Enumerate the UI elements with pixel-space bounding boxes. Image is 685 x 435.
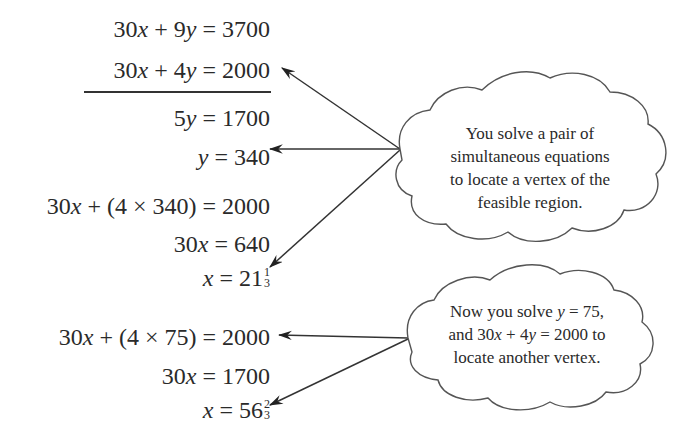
arrow-to-sub2-line1 <box>279 335 408 338</box>
arrow-to-x-56 <box>270 339 408 405</box>
callout-1-line-1: You solve a pair of <box>410 122 650 145</box>
callout-1-line-3: to locate a vertex of the <box>410 168 650 191</box>
callout-1-text: You solve a pair of simultaneous equatio… <box>410 122 650 214</box>
callout-1-line-4: feasible region. <box>410 191 650 214</box>
callout-2-line-1: Now you solve y = 75, <box>412 300 642 323</box>
arrow-to-x-21 <box>270 150 400 267</box>
callout-1-line-2: simultaneous equations <box>410 145 650 168</box>
arrow-to-equation-2 <box>282 68 400 149</box>
callout-2-line-3: locate another vertex. <box>412 346 642 369</box>
arrows-and-clouds <box>0 0 685 435</box>
callout-2-text: Now you solve y = 75, and 30x + 4y = 200… <box>412 300 642 369</box>
callout-2-line-2: and 30x + 4y = 2000 to <box>412 323 642 346</box>
